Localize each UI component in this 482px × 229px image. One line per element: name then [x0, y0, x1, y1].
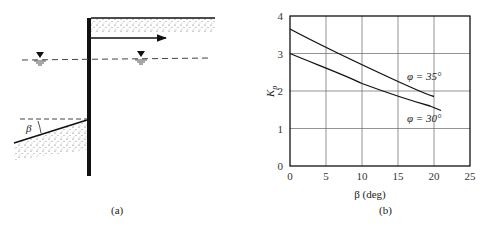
annotation-phi-35: φ = 35°: [407, 70, 442, 82]
x-axis-label: β (deg): [354, 188, 386, 201]
water-table-icon-right: [135, 51, 147, 64]
caption-a: (a): [111, 204, 124, 217]
backfill-soil: [91, 18, 215, 32]
annotation-phi-30: φ = 30°: [407, 112, 442, 124]
svg-text:0: 0: [287, 170, 293, 182]
y-tick-labels: 0 1 2 3 4: [278, 10, 284, 172]
svg-text:5: 5: [323, 170, 329, 182]
svg-text:3: 3: [278, 48, 284, 60]
svg-text:4: 4: [278, 10, 284, 22]
water-table-line: [22, 58, 212, 60]
figure-canvas: β (a) 0 5 10 15 20 25 0 1 2 3 4: [0, 0, 482, 229]
angle-arc-icon: [38, 121, 41, 133]
caption-b: (b): [379, 204, 392, 217]
svg-text:15: 15: [393, 170, 405, 182]
beta-angle-label: β: [25, 122, 32, 134]
svg-text:1: 1: [278, 123, 284, 135]
svg-text:10: 10: [357, 170, 369, 182]
x-tick-labels: 0 5 10 15 20 25: [287, 170, 476, 182]
svg-text:25: 25: [465, 170, 477, 182]
kp-chart: 0 5 10 15 20 25 0 1 2 3 4 Kp β (deg) φ =…: [264, 10, 476, 201]
grid: [290, 16, 470, 166]
svg-text:20: 20: [429, 170, 441, 182]
series-phi-30: [290, 54, 441, 111]
water-table-icon-left: [34, 52, 46, 65]
svg-text:0: 0: [278, 160, 284, 172]
sheet-pile-diagram: β: [14, 18, 215, 176]
